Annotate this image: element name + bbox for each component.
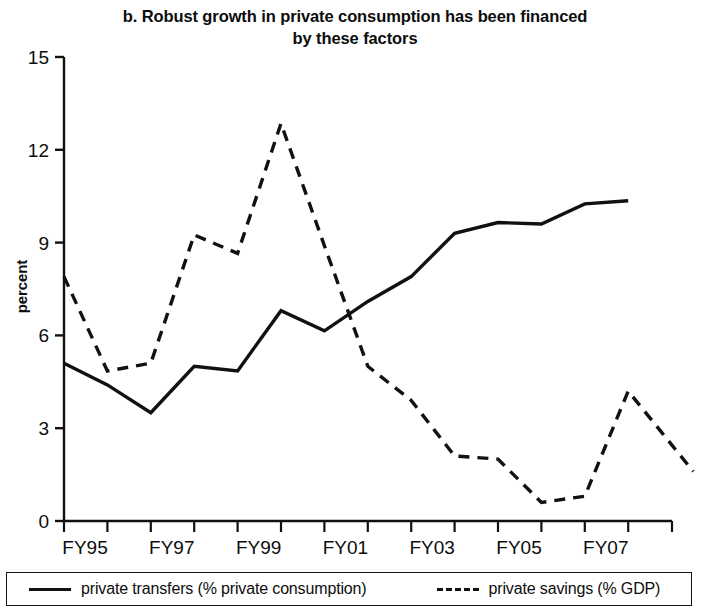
y-axis-tick-label: 12 (28, 140, 49, 161)
chart-figure: percent 03691215 FY95FY97FY99FY01FY03FY0… (0, 0, 701, 565)
x-axis-tick-label: FY97 (149, 537, 194, 558)
data-line-private-transfers (64, 201, 628, 413)
y-axis-tick-label: 15 (28, 47, 49, 68)
x-axis: FY95FY97FY99FY01FY03FY05FY07 (62, 521, 672, 558)
legend-label-private-transfers: private transfers (% private consumption… (81, 580, 367, 598)
legend-swatch-solid-line-icon (29, 588, 71, 591)
y-axis-tick-label: 3 (38, 418, 49, 439)
y-axis-tick-label: 0 (38, 511, 49, 532)
x-axis-tick-label: FY01 (323, 537, 368, 558)
legend-swatch-dashed-line-icon (437, 588, 479, 591)
y-axis-tick-label: 6 (38, 325, 49, 346)
data-line-private-savings (64, 124, 693, 503)
x-axis-tick-label: FY95 (62, 537, 107, 558)
legend-label-private-savings: private savings (% GDP) (489, 580, 661, 598)
y-axis: 03691215 (28, 47, 64, 532)
legend-item-private-transfers: private transfers (% private consumption… (29, 573, 367, 605)
y-axis-tick-label: 9 (38, 233, 49, 254)
x-axis-tick-label: FY99 (236, 537, 281, 558)
data-series-group (64, 124, 693, 503)
x-axis-tick-label: FY05 (496, 537, 541, 558)
x-axis-tick-label: FY03 (409, 537, 454, 558)
legend-item-private-savings: private savings (% GDP) (437, 573, 661, 605)
chart-legend: private transfers (% private consumption… (6, 572, 692, 606)
line-chart-plot: 03691215 FY95FY97FY99FY01FY03FY05FY07 (0, 0, 701, 565)
x-axis-tick-label: FY07 (583, 537, 628, 558)
